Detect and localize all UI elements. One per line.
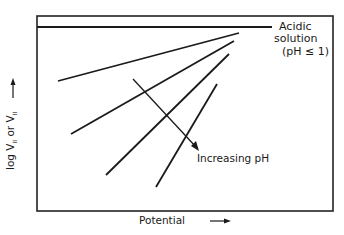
series-line-1 — [58, 33, 239, 81]
series-line-2 — [71, 41, 234, 134]
increasing-ph-label: Increasing pH — [197, 152, 269, 164]
acidic-label-line3: (pH ≤ 1) — [282, 46, 329, 58]
increasing-ph-arrow — [133, 79, 196, 147]
acidic-label-line2: solution — [274, 33, 318, 45]
y-arrowhead-icon — [11, 78, 16, 85]
x-arrowhead-icon — [224, 219, 231, 224]
y-label-subscript-1: II — [11, 140, 18, 144]
y-label-main: log V — [4, 143, 16, 170]
y-label-subscript-2: II — [11, 112, 18, 116]
y-label-or: or V — [4, 115, 16, 140]
x-axis-label: Potential — [139, 214, 185, 226]
series-line-4 — [156, 84, 217, 187]
y-axis-label: log VII or VII — [4, 112, 18, 170]
